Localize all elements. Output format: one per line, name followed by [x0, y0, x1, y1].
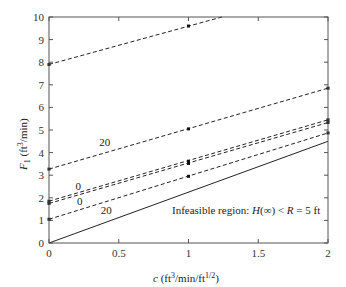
curve-label: 0: [76, 180, 82, 192]
y-tick-label: 5: [39, 124, 45, 136]
data-marker: [187, 175, 190, 178]
y-tick-label: 3: [39, 169, 45, 181]
chart: 00.511.52012345678910 200020 Infeasible …: [0, 0, 346, 287]
x-tick-label: 0.5: [112, 247, 126, 259]
x-tick-label: 2: [325, 247, 331, 259]
curve-line: [49, 141, 328, 243]
curve-label: 20: [99, 136, 111, 148]
y-tick-label: 4: [39, 147, 45, 159]
curve-line: [49, 17, 222, 64]
x-tick-label: 1: [186, 247, 192, 259]
annotation-infeasible: Infeasible region: H(∞) < R = 5 ft: [172, 204, 320, 217]
axis-ticks: 00.511.52012345678910: [33, 11, 331, 259]
curve-label: 0: [77, 195, 83, 207]
x-axis-label: c (ft3/min/ft1/2): [153, 271, 219, 285]
y-tick-label: 0: [39, 237, 45, 249]
x-tick-label: 1.5: [251, 247, 265, 259]
y-tick-label: 1: [39, 214, 45, 226]
y-tick-label: 6: [39, 101, 45, 113]
y-tick-label: 9: [39, 34, 45, 46]
data-marker: [187, 127, 190, 130]
data-marker: [187, 162, 190, 165]
y-tick-label: 10: [33, 11, 45, 23]
y-tick-label: 8: [39, 56, 45, 68]
curve-label: 20: [101, 204, 113, 216]
y-tick-label: 2: [39, 192, 45, 204]
y-tick-label: 7: [39, 79, 45, 91]
x-tick-label: 0: [46, 247, 52, 259]
y-axis-label: F1 (ft3/min): [16, 118, 32, 171]
curve-labels: 200020: [76, 136, 113, 216]
data-marker: [187, 25, 190, 28]
